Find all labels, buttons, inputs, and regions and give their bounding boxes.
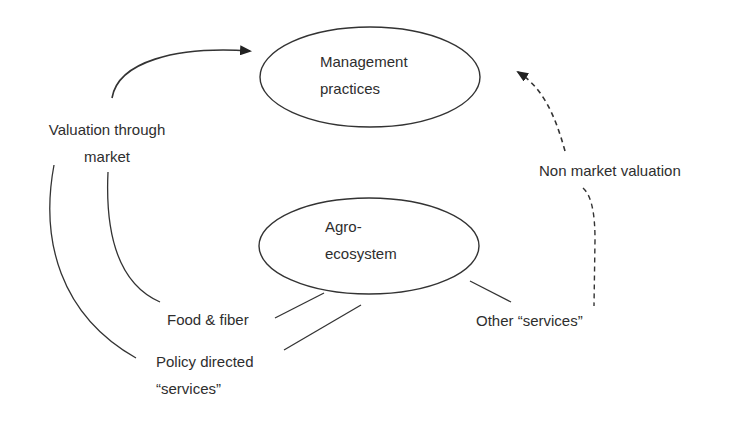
policy-to-market-curve <box>50 165 136 358</box>
valuation-market-line-2: market <box>32 143 182 170</box>
policy-line-2: “services” <box>156 375 254 402</box>
policy-line-1: Policy directed <box>156 348 254 375</box>
non-market-valuation-label: Non market valuation <box>539 157 681 184</box>
other-services-to-non-market-link <box>583 188 595 306</box>
agroecosystem-to-food-fiber-line <box>275 293 324 318</box>
agroecosystem-to-policy-line <box>284 305 361 350</box>
management-practices-label: Management practices <box>320 48 408 102</box>
valuation-market-line-1: Valuation through <box>32 116 182 143</box>
policy-directed-services-label: Policy directed “services” <box>156 348 254 402</box>
management-practices-line-1: Management <box>320 48 408 75</box>
other-services-label: Other “services” <box>476 307 583 334</box>
management-practices-line-2: practices <box>320 75 408 102</box>
agroecosystem-to-other-services-line <box>470 281 511 302</box>
food-fiber-to-market-curve <box>108 172 160 302</box>
valuation-through-market-label: Valuation through market <box>32 116 182 170</box>
food-fiber-label: Food & fiber <box>167 306 249 333</box>
agroecosystem-line-2: ecosystem <box>325 240 397 267</box>
market-valuation-arrow <box>112 50 250 98</box>
non-market-valuation-arrow <box>518 72 565 151</box>
agroecosystem-label: Agro- ecosystem <box>325 213 397 267</box>
agroecosystem-line-1: Agro- <box>325 213 397 240</box>
